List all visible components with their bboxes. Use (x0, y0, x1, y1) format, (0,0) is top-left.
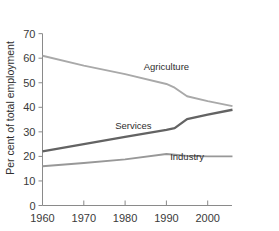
line-chart: Per cent of total employment 01020304050… (0, 0, 279, 231)
y-tick-label: 20 (23, 150, 35, 162)
y-tick-label: 70 (23, 28, 35, 40)
y-tick-label: 10 (23, 175, 35, 187)
x-tick-label: 1990 (154, 212, 178, 224)
series-label-services: Services (115, 120, 152, 131)
y-tick-label: 60 (23, 52, 35, 64)
chart-container: Per cent of total employment 01020304050… (0, 0, 279, 231)
y-tick-label: 30 (23, 126, 35, 138)
x-tick-label: 1970 (72, 212, 96, 224)
series-inline-labels: AgricultureServicesIndustry (115, 61, 204, 162)
x-tick-label: 1960 (30, 212, 54, 224)
series-label-agriculture: Agriculture (144, 61, 189, 72)
y-axis-title: Per cent of total employment (4, 41, 16, 175)
series-lines (43, 56, 233, 166)
x-tick-label: 1980 (113, 212, 137, 224)
y-axis-title-label: Per cent of total employment (4, 41, 16, 175)
y-tick-label: 50 (23, 77, 35, 89)
series-line-industry (43, 154, 233, 166)
y-tick-label: 0 (29, 200, 35, 212)
x-tick-label: 2000 (195, 212, 219, 224)
x-axis-ticks: 19601970198019902000 (30, 201, 220, 224)
y-tick-label: 40 (23, 101, 35, 113)
series-line-agriculture (43, 56, 233, 106)
series-label-industry: Industry (170, 151, 204, 162)
y-axis-ticks: 010203040506070 (23, 28, 42, 212)
